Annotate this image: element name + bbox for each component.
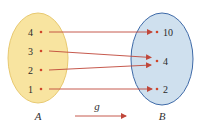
a-dot-2	[40, 69, 43, 72]
set-b-label: B	[159, 110, 166, 122]
b-dot-4	[156, 60, 159, 63]
mapping-diagram: 4 3 2 1 10 4 2 A B g	[0, 0, 199, 122]
set-a-ellipse	[8, 13, 68, 103]
function-label: g	[94, 100, 100, 112]
b-dot-2	[156, 88, 159, 91]
a-element-3: 3	[28, 46, 33, 57]
a-dot-3	[40, 50, 43, 53]
b-element-10: 10	[163, 27, 173, 38]
b-element-2: 2	[163, 84, 168, 95]
a-element-1: 1	[28, 84, 33, 95]
b-element-4: 4	[163, 56, 168, 67]
a-dot-4	[40, 31, 43, 34]
a-element-2: 2	[28, 65, 33, 76]
set-a-label: A	[34, 110, 42, 122]
a-element-4: 4	[28, 27, 33, 38]
b-dot-10	[156, 31, 159, 34]
set-b-ellipse	[131, 13, 193, 105]
a-dot-1	[40, 88, 43, 91]
